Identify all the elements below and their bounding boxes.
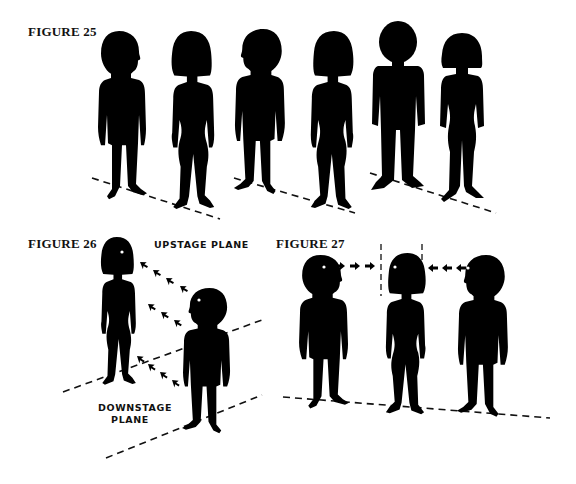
man-silhouette: [234, 29, 285, 194]
eye: [197, 298, 200, 301]
eye: [466, 266, 469, 269]
arrow-icon: [350, 262, 360, 270]
arrow-icon: [145, 361, 157, 373]
arrow-icon: [456, 264, 466, 272]
arrow-icon: [172, 317, 184, 328]
figure-25: [92, 21, 496, 219]
downstage-plane-line: [106, 395, 262, 458]
upstage-plane-line: [63, 320, 262, 392]
woman-silhouette: [172, 31, 215, 209]
woman-silhouette: [386, 253, 426, 414]
figure-26: [63, 237, 262, 458]
sightline-arrows: [134, 259, 189, 389]
eye: [322, 265, 325, 268]
arrow-icon: [146, 301, 158, 312]
arrow-icon: [169, 377, 181, 389]
woman-silhouette-front: [440, 33, 484, 202]
man-silhouette: [457, 255, 508, 417]
figure-27: [283, 244, 550, 418]
arrow-icon: [159, 309, 171, 320]
arrow-icon: [157, 369, 169, 381]
arrow-icon: [428, 264, 438, 272]
man-silhouette: [98, 31, 147, 199]
arrow-icon: [164, 275, 176, 286]
eye: [120, 250, 123, 253]
arrow-icon: [178, 283, 190, 294]
arrow-icon: [442, 264, 452, 272]
sightline-arrows-left: [428, 264, 466, 272]
sightline-arrows-right: [335, 262, 375, 270]
woman-silhouette: [311, 31, 354, 209]
man-silhouette-front: [371, 21, 425, 190]
arrow-icon: [365, 262, 375, 270]
arrow-icon: [138, 259, 150, 270]
woman-silhouette: [101, 237, 136, 385]
arrow-icon: [151, 267, 163, 278]
illustration-canvas: [0, 0, 576, 484]
man-silhouette: [299, 255, 349, 408]
eye: [393, 265, 396, 268]
